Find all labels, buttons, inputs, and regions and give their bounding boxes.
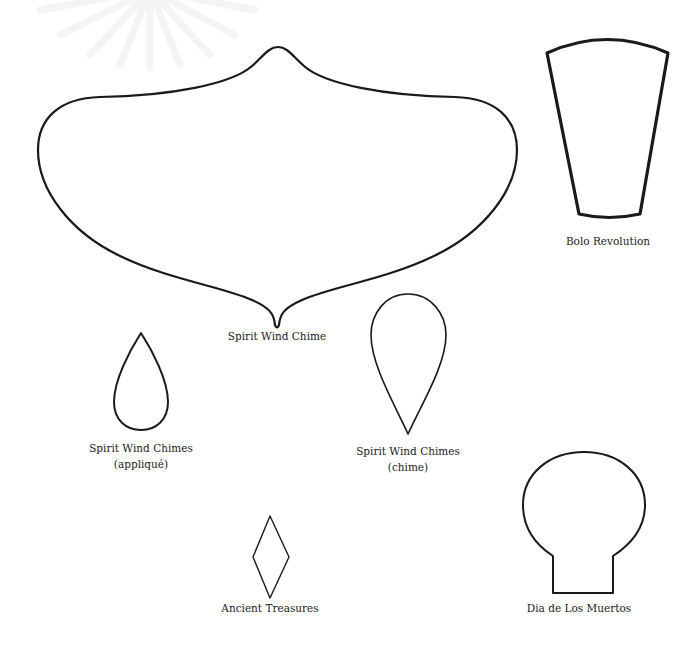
chime-label-line2: (chime): [356, 459, 460, 475]
sunburst-watermark-icon: [40, 0, 255, 68]
spirit-wind-chime-shape: [38, 47, 517, 328]
dia-de-los-muertos-label: Dia de Los Muertos: [527, 600, 631, 616]
applique-label-line1: Spirit Wind Chimes: [89, 440, 193, 456]
chime-label-line1: Spirit Wind Chimes: [356, 443, 460, 459]
applique-label-line2: (appliqué): [89, 456, 193, 472]
ancient-treasures-diamond-shape: [253, 516, 289, 598]
dia-de-los-muertos-skull-shape: [523, 452, 645, 593]
chime-teardrop-shape: [371, 294, 446, 434]
chime-label: Spirit Wind Chimes (chime): [356, 443, 460, 475]
template-sheet: [0, 0, 698, 647]
applique-label: Spirit Wind Chimes (appliqué): [89, 440, 193, 472]
bolo-revolution-shape: [547, 40, 668, 218]
ancient-treasures-label: Ancient Treasures: [221, 600, 318, 616]
spirit-wind-chime-label: Spirit Wind Chime: [228, 328, 326, 344]
bolo-revolution-label: Bolo Revolution: [566, 233, 650, 249]
applique-teardrop-shape: [114, 333, 168, 430]
